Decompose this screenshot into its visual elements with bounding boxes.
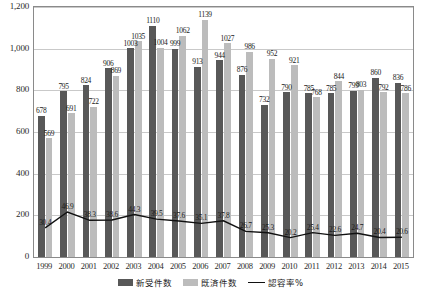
line-value-label: 38.3 [84, 210, 96, 219]
line-value-label: 46.9 [61, 202, 73, 211]
legend-item[interactable]: 新受件数 [118, 276, 172, 288]
legend-label: 新受件数 [136, 276, 172, 288]
line-value-label: 24.7 [351, 223, 363, 232]
x-axis-tick-label: 2007 [215, 261, 231, 271]
x-axis-tick-label: 2012 [326, 261, 342, 271]
legend-swatch-light [183, 279, 198, 286]
x-axis-tick-label: 2002 [103, 261, 119, 271]
x-axis-tick-label: 2004 [148, 261, 164, 271]
x-axis-tick-label: 2013 [348, 261, 364, 271]
x-axis-tick-label: 1999 [36, 261, 52, 271]
x-axis-tick-label: 2009 [259, 261, 275, 271]
y-axis-tick-label: 400 [16, 168, 29, 178]
x-axis-tick-label: 2011 [304, 261, 320, 271]
legend-item[interactable]: 認容率% [248, 276, 303, 288]
line-value-label: 37.8 [218, 211, 230, 220]
chart-container: 6785697956918247229068691003103511101004… [0, 0, 421, 293]
x-axis-tick-label: 2000 [59, 261, 75, 271]
legend-label: 既済件数 [201, 276, 237, 288]
line-value-label: 39.5 [151, 209, 163, 218]
line-value-label: 44.3 [128, 205, 140, 214]
y-axis-tick-label: 0 [25, 251, 29, 261]
x-axis-tick-label: 2008 [237, 261, 253, 271]
plot-area: 6785697956918247229068691003103511101004… [33, 6, 414, 258]
x-axis-tick-label: 2010 [281, 261, 297, 271]
line-value-label: 25.3 [262, 223, 274, 232]
line-value-label: 20.6 [396, 227, 408, 236]
y-axis-tick-label: 600 [16, 126, 29, 136]
legend-item[interactable]: 既済件数 [183, 276, 237, 288]
y-axis-tick-label: 800 [16, 84, 29, 94]
x-axis-tick-label: 2001 [81, 261, 97, 271]
line-value-label: 20.2 [284, 228, 296, 237]
line-value-label: 20.4 [374, 227, 386, 236]
line-value-label: 26.7 [240, 221, 252, 230]
line-value-label: 30.4 [39, 218, 51, 227]
line-data-labels: 30.446.938.338.644.339.537.635.137.826.7… [34, 7, 413, 257]
line-value-label: 38.6 [106, 210, 118, 219]
legend-swatch-line [248, 279, 265, 286]
line-value-label: 37.6 [173, 211, 185, 220]
y-axis-tick-label: 1,200 [10, 1, 29, 11]
x-axis: 1999200020012002200320042005200620072008… [33, 259, 414, 275]
x-axis-tick-label: 2003 [125, 261, 141, 271]
line-value-label: 22.6 [329, 225, 341, 234]
line-value-label: 35.1 [195, 213, 207, 222]
x-axis-tick-label: 2014 [371, 261, 387, 271]
legend-swatch-dark [118, 279, 133, 286]
legend-label: 認容率% [268, 276, 303, 288]
line-value-label: 25.4 [307, 223, 319, 232]
x-axis-tick-label: 2015 [393, 261, 409, 271]
y-axis-tick-label: 1,000 [10, 43, 29, 53]
x-axis-tick-label: 2005 [170, 261, 186, 271]
y-axis-tick-label: 200 [16, 209, 29, 219]
chart-legend: 新受件数既済件数認容率% [0, 276, 421, 288]
x-axis-tick-label: 2006 [192, 261, 208, 271]
